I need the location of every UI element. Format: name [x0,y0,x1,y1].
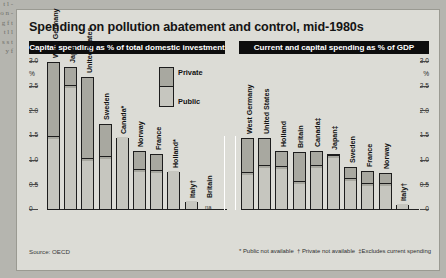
bar[interactable] [185,202,198,210]
bar-segment-private [345,168,356,181]
bar-split-line [82,158,93,159]
bar-slot: West Germany [241,62,254,210]
bar-category-label: Japan‡ [331,126,339,150]
bar-slot: Canada‡ [310,62,323,210]
bar-split-line [276,166,287,167]
bar-segment-public [82,159,93,209]
footnotes: * Public not available † Private not ava… [239,248,431,254]
bar[interactable] [241,138,254,210]
bar-category-label: Canada‡ [314,117,322,147]
bar[interactable] [344,167,357,210]
footnote-public: * Public not available [239,248,294,254]
bar[interactable] [361,171,374,210]
bar-category-label: Canada* [120,106,128,134]
bar-category-label: Italy† [189,179,197,197]
bar-slot: Japan [64,62,77,210]
bar-split-line [345,178,356,179]
bar-segment-private [380,174,391,186]
page-title: Spending on pollution abatement and cont… [29,20,364,34]
bar[interactable] [99,124,112,210]
bar-segment-public [345,179,356,209]
bar-segment-private [48,63,59,139]
bar[interactable] [327,154,340,210]
bar-segment-public [294,182,305,209]
chart-right-banner: Current and capital spending as % of GDP [239,41,429,54]
bar-slot: Canada* [116,62,129,210]
bar-segment-private [100,125,111,160]
bar-category-label: Japan [69,42,77,63]
chart-figure: Spending on pollution abatement and cont… [16,9,440,271]
bar-segment-public [242,173,253,209]
legend-label-public: Public [178,97,203,106]
bar-split-line [294,181,305,182]
bar[interactable] [133,151,146,210]
bar-split-line [100,156,111,157]
bar-slot: Holland [275,62,288,210]
bar-split-line [362,183,373,184]
bar-split-line [151,170,162,171]
y-tick-rule [420,61,429,62]
legend-swatch-divider [160,86,173,87]
bar-category-label: Britain [206,176,214,198]
bar[interactable] [167,172,180,210]
bar-segment-public [117,137,128,209]
bar[interactable] [275,151,288,210]
bar-segment-private [82,78,93,161]
y-tick-rule [29,135,38,136]
chart-left-panel: 3.0%2.52.01.51.00.50West GermanyJapanUni… [29,62,227,242]
y-tick-rule [420,86,429,87]
y-tick-rule [420,135,429,136]
legend-label-private: Private [178,68,203,77]
bar-slot: Sweden [99,62,112,210]
y-tick-label: % [423,71,429,78]
bar-split-line [134,169,145,170]
bar-category-label: West Germany [246,85,254,135]
figure-page: t l - o n - g f t t l l s s t y f Spendi… [0,0,446,278]
bar-slot: West Germany [47,62,60,210]
legend-swatch [159,67,174,107]
bar-slot: Italy† [396,62,409,210]
bar-segment-public [168,171,179,209]
bar[interactable] [258,138,271,210]
y-tick-rule [420,184,429,185]
bar-category-label: United States [86,27,94,72]
bar-split-line [48,136,59,137]
bar-segment-private [294,153,305,184]
bar-segment-public [362,184,373,209]
bar[interactable] [150,154,163,210]
bar[interactable] [293,152,306,210]
bar[interactable] [64,67,77,210]
footnote-excludes: ‡Excludes current spending [358,248,431,254]
bar-segment-public [186,201,197,209]
bar-segment-public [134,170,145,209]
legend: PrivatePublic [159,67,203,107]
bar[interactable] [310,151,323,210]
bar-slot: United States [258,62,271,210]
bar-category-label: Sweden [349,136,357,163]
y-tick-label: % [29,71,35,78]
bar[interactable] [116,138,129,210]
y-tick-rule [29,110,38,111]
footnote-private: † Private not available [297,248,355,254]
bar[interactable] [81,77,94,210]
bar-split-line [311,165,322,166]
y-tick-rule [420,110,429,111]
bar-segment-public [397,204,408,209]
bar-segment-public [151,171,162,209]
y-tick-rule [29,184,38,185]
bar-slot: Norway [379,62,392,210]
bar[interactable] [396,205,409,210]
bar[interactable] [379,173,392,210]
y-tick-rule [420,160,429,161]
bar-slot: naBritain [202,62,215,210]
y-tick-rule [29,61,38,62]
bar-split-line [65,85,76,86]
source-note: Source: OECD [29,248,70,255]
chart-right-panel: 3.0%2.52.01.51.00.50West GermanyUnited S… [233,62,429,242]
bar-group: West GermanyUnited StatesHollandBritainC… [241,62,419,210]
plot-area-left: 3.0%2.52.01.51.00.50West GermanyJapanUni… [29,62,227,242]
bar-segment-private [242,139,253,175]
bar[interactable] [47,62,60,210]
bar-slot: Sweden [344,62,357,210]
bar-segment-public [65,86,76,209]
